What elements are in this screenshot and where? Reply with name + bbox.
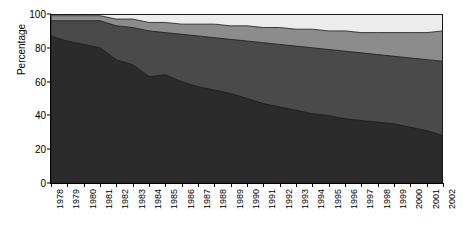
x-tick-mark	[263, 183, 264, 187]
x-tick-label: 1987	[202, 189, 212, 209]
x-tick-label: 1999	[398, 189, 408, 209]
y-tick-label: 0	[40, 178, 51, 189]
x-tick-mark	[361, 183, 362, 187]
stacked-area-chart: Percentage 020406080100 1978197919801981…	[0, 0, 463, 227]
x-tick-mark	[67, 183, 68, 187]
x-tick-mark	[378, 183, 379, 187]
x-tick-label: 1978	[55, 189, 65, 209]
x-tick-label: 1985	[169, 189, 179, 209]
y-axis-label: Percentage	[16, 0, 27, 115]
x-tick-label: 2000	[414, 189, 424, 209]
x-tick-mark	[214, 183, 215, 187]
x-tick-mark	[410, 183, 411, 187]
x-tick-mark	[312, 183, 313, 187]
x-tick-label: 1995	[333, 189, 343, 209]
y-tick-label: 100	[29, 9, 51, 20]
x-tick-label: 1988	[218, 189, 228, 209]
x-tick-mark	[394, 183, 395, 187]
x-tick-label: 1993	[300, 189, 310, 209]
x-tick-label: 1998	[382, 189, 392, 209]
x-tick-label: 1980	[88, 189, 98, 209]
x-tick-label: 1991	[267, 189, 277, 209]
x-tick-label: 1979	[71, 189, 81, 209]
x-tick-mark	[296, 183, 297, 187]
x-tick-mark	[165, 183, 166, 187]
x-tick-mark	[100, 183, 101, 187]
x-tick-mark	[329, 183, 330, 187]
x-tick-mark	[182, 183, 183, 187]
x-tick-mark	[280, 183, 281, 187]
x-tick-label: 1996	[349, 189, 359, 209]
x-tick-label: 1997	[365, 189, 375, 209]
y-tick-label: 80	[35, 42, 51, 53]
y-tick-label: 20	[35, 144, 51, 155]
x-tick-mark	[84, 183, 85, 187]
x-tick-mark	[247, 183, 248, 187]
plot-area: 020406080100 197819791980198119821983198…	[50, 14, 443, 184]
y-tick-label: 40	[35, 110, 51, 121]
x-tick-label: 1994	[316, 189, 326, 209]
x-tick-mark	[345, 183, 346, 187]
y-tick-label: 60	[35, 76, 51, 87]
area-series-svg	[51, 14, 443, 183]
x-tick-label: 1986	[186, 189, 196, 209]
x-tick-label: 1989	[235, 189, 245, 209]
x-tick-label: 1982	[120, 189, 130, 209]
x-tick-mark	[116, 183, 117, 187]
x-tick-mark	[133, 183, 134, 187]
x-tick-label: 1983	[137, 189, 147, 209]
x-tick-label: 1984	[153, 189, 163, 209]
x-tick-mark	[427, 183, 428, 187]
x-tick-label: 1981	[104, 189, 114, 209]
x-tick-label: 1990	[251, 189, 261, 209]
x-tick-mark	[198, 183, 199, 187]
x-tick-mark	[443, 183, 444, 187]
x-tick-mark	[231, 183, 232, 187]
x-tick-label: 2002	[447, 189, 457, 209]
x-tick-mark	[51, 183, 52, 187]
x-tick-label: 2001	[431, 189, 441, 209]
x-tick-mark	[149, 183, 150, 187]
x-tick-label: 1992	[284, 189, 294, 209]
